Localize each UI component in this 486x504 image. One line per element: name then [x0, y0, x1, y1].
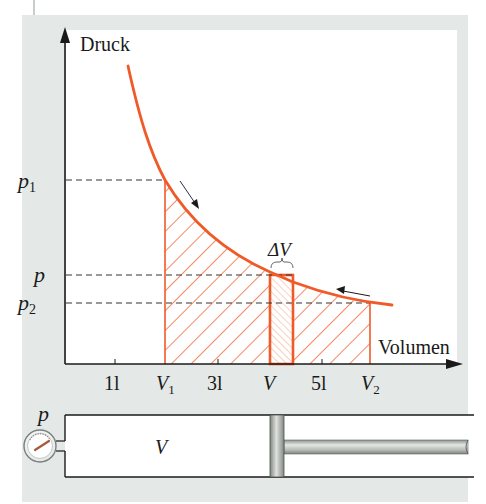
delta-v-label: ΔV — [267, 239, 293, 260]
piston — [270, 415, 284, 477]
x-axis-label: Volumen — [378, 336, 450, 358]
delta-v-strip-fill — [270, 275, 293, 364]
piston-rod — [284, 440, 468, 454]
pv-diagram: Druck Volumen p1 p p2 1l V1 3l V 5l V2 Δ… — [0, 0, 486, 504]
y-axis-label: Druck — [80, 33, 130, 55]
x-label-5l: 5l — [311, 372, 327, 394]
cylinder-gas-chamber — [65, 415, 270, 477]
cylinder-pressure-label: p — [36, 401, 49, 426]
pressure-gauge-icon — [24, 430, 56, 462]
x-label-3l: 3l — [207, 372, 223, 394]
x-label-1l: 1l — [104, 372, 120, 394]
y-label-p: p — [32, 262, 45, 287]
